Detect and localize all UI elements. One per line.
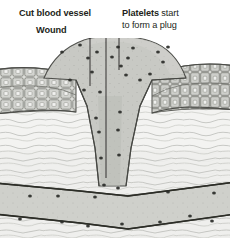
platelet	[166, 190, 170, 193]
platelet	[119, 64, 123, 67]
platelet	[56, 194, 60, 197]
platelet	[156, 50, 160, 53]
platelet	[68, 78, 72, 81]
platelet	[188, 214, 192, 217]
platelet	[116, 128, 120, 131]
platelet	[60, 50, 64, 53]
platelet	[78, 43, 82, 46]
wound-healing-diagram	[0, 0, 230, 238]
label-cut-blood-vessel: Cut blood vessel	[19, 8, 91, 19]
label-cut-blood-vessel-text: Cut blood vessel	[19, 8, 91, 18]
label-wound: Wound	[36, 25, 66, 36]
platelet	[124, 73, 128, 76]
platelet	[86, 224, 90, 227]
platelet	[28, 194, 32, 197]
platelet	[126, 56, 130, 59]
platelet	[131, 46, 135, 49]
platelet	[98, 90, 102, 93]
platelet	[138, 78, 142, 81]
platelet	[210, 219, 214, 222]
platelet	[97, 130, 101, 133]
platelet	[116, 186, 120, 189]
platelet	[110, 55, 114, 58]
platelet	[18, 217, 22, 220]
platelet	[95, 50, 99, 53]
platelet	[93, 195, 97, 198]
platelet	[102, 183, 106, 186]
label-wound-text: Wound	[36, 25, 66, 35]
label-platelets-line2: to form a plug	[122, 20, 177, 31]
platelet	[118, 110, 122, 113]
illustration-stage: Cut blood vessel Wound Platelets start t…	[0, 0, 230, 238]
label-platelets-line1: Platelets start	[122, 8, 179, 19]
platelet	[90, 70, 94, 73]
label-platelets-bold: Platelets	[122, 8, 159, 18]
platelet	[120, 222, 124, 225]
platelet	[158, 220, 162, 223]
platelet	[99, 156, 103, 159]
label-platelets-rest: start	[159, 8, 179, 18]
platelet	[161, 60, 165, 63]
platelet	[82, 88, 86, 91]
platelet	[60, 220, 64, 223]
platelet	[86, 56, 90, 59]
platelet	[212, 191, 216, 194]
platelet	[117, 153, 121, 156]
platelet	[94, 116, 98, 119]
platelet	[148, 72, 152, 75]
platelet	[166, 45, 170, 48]
